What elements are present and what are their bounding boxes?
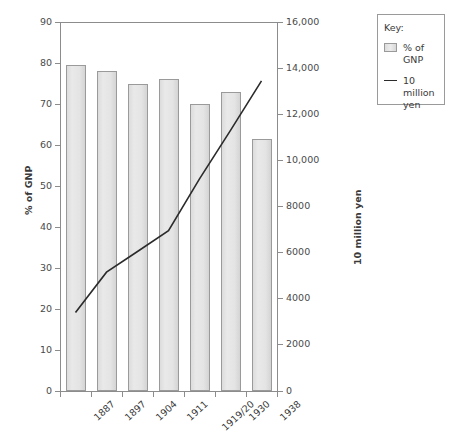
y-axis-left-tick-label: 40 <box>8 222 52 232</box>
y-axis-right-tick <box>278 252 283 253</box>
y-axis-right-tick-label: 4000 <box>286 293 340 303</box>
x-axis-tick-label: 1911 <box>185 399 210 423</box>
y-axis-left-tick-label: 70 <box>8 99 52 109</box>
y-axis-right-tick <box>278 391 283 392</box>
y-axis-left-tick-label: 0 <box>8 386 52 396</box>
bar <box>221 92 241 391</box>
y-axis-right-tick-label: 14,000 <box>286 63 340 73</box>
y-axis-right-tick <box>278 160 283 161</box>
x-axis-tick <box>153 392 154 397</box>
legend-box: Key: % of GNP 10 millionyen <box>377 14 445 105</box>
y-axis-right-tick-label: 8000 <box>286 201 340 211</box>
line-swatch-icon <box>384 80 397 81</box>
x-axis-tick <box>60 392 61 397</box>
legend-item-10-million-yen: 10 millionyen <box>384 75 444 111</box>
y-axis-left-tick-label: 60 <box>8 140 52 150</box>
y-axis-left-tick-label: 20 <box>8 304 52 314</box>
y-axis-right-tick <box>278 344 283 345</box>
y-axis-right-tick-label: 16,000 <box>286 17 340 27</box>
x-axis-tick <box>277 392 278 397</box>
x-axis-tick-label: 1887 <box>92 399 117 423</box>
y-axis-right-line <box>277 22 278 392</box>
y-axis-right-title: 10 million yen <box>352 190 363 265</box>
chart-figure: % of GNP 10 million yen 0102030405060708… <box>0 0 452 447</box>
legend-item-pct-of-gnp: % of GNP <box>384 42 444 66</box>
x-axis-tick-label: 1897 <box>123 399 148 423</box>
bar <box>252 139 272 391</box>
legend-item-label-line2: yen <box>403 99 421 110</box>
y-axis-right-tick <box>278 22 283 23</box>
y-axis-right-tick <box>278 298 283 299</box>
bar <box>66 65 86 391</box>
x-axis-tick <box>184 392 185 397</box>
bar <box>128 84 148 392</box>
y-axis-left-tick-label: 80 <box>8 58 52 68</box>
legend-title: Key: <box>384 22 444 33</box>
bar <box>190 104 210 391</box>
y-axis-right-tick-label: 10,000 <box>286 155 340 165</box>
y-axis-right-tick <box>278 206 283 207</box>
x-axis-tick <box>91 392 92 397</box>
x-axis-tick <box>122 392 123 397</box>
y-axis-right-tick <box>278 68 283 69</box>
bar-series-pct-of-gnp <box>60 22 277 391</box>
legend-item-label: % of GNP <box>403 42 444 66</box>
x-axis-tick <box>215 392 216 397</box>
x-axis-tick-label: 1904 <box>154 399 179 423</box>
y-axis-right-tick <box>278 114 283 115</box>
y-axis-left-tick-label: 10 <box>8 345 52 355</box>
y-axis-left-tick-label: 50 <box>8 181 52 191</box>
y-axis-right-tick-label: 2000 <box>286 339 340 349</box>
y-axis-left-tick-label: 90 <box>8 17 52 27</box>
y-axis-right-tick-label: 0 <box>286 386 340 396</box>
x-axis-tick-label: 1938 <box>278 399 303 423</box>
bar <box>97 71 117 391</box>
x-axis-tick <box>246 392 247 397</box>
legend-item-label: 10 millionyen <box>403 75 444 111</box>
bar <box>159 79 179 391</box>
y-axis-left-tick-label: 30 <box>8 263 52 273</box>
legend-item-label-line1: 10 million <box>403 75 435 98</box>
bar-swatch-icon <box>384 43 397 52</box>
y-axis-right-tick-label: 6000 <box>286 247 340 257</box>
y-axis-right-tick-label: 12,000 <box>286 109 340 119</box>
